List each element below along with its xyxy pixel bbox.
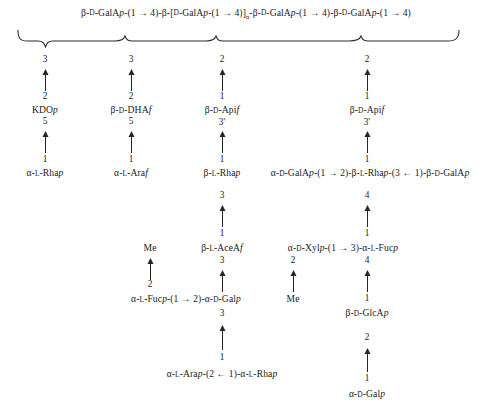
- bond-arrow-c2-b: [127, 131, 136, 153]
- residue-ara-rha-chain: α-L-Arap-(2 ← 1)-α-L-Rhap: [167, 369, 278, 379]
- bond-arrow-c4-d: [363, 270, 372, 292]
- bond-arrow-c3-a: [218, 69, 227, 91]
- residue-me-c4: Me: [287, 294, 300, 304]
- bond-arrow-c4-me: [289, 270, 298, 292]
- residue-b-d-dhaf: β-D-DHAf: [111, 105, 152, 115]
- c3-locant-1a: 1: [220, 92, 225, 101]
- residue-b-l-aceaf: β-L-AceAf: [201, 243, 243, 253]
- residue-b-d-glcap: β-D-GlcAp: [345, 308, 388, 318]
- residue-me-c3: Me: [144, 243, 157, 253]
- c2-locant-1: 1: [129, 155, 134, 164]
- c4-locant-1a: 1: [365, 92, 370, 101]
- c3-locant-1b: 1: [220, 155, 225, 164]
- bond-arrow-c3-c: [218, 205, 227, 227]
- c3-locant-3c: 3: [220, 309, 225, 318]
- bond-arrow-c3-d: [218, 270, 227, 292]
- bond-arrow-c4-b: [363, 131, 372, 153]
- residue-xyl-fuc-chain: α-D-Xylp-(1 → 3)-α-L-Fucp: [288, 243, 398, 253]
- c4-locant-1e: 1: [365, 374, 370, 383]
- bond-arrow-c4-e: [363, 348, 372, 372]
- bond-arrow-c2-a: [127, 69, 136, 91]
- c3-locant-3prime: 3': [219, 118, 226, 127]
- residue-b-d-apif-c4: β-D-Apif: [350, 105, 384, 115]
- c4-locant-1d: 1: [365, 294, 370, 303]
- bond-arrow-c1-a: [41, 69, 50, 91]
- c4-locant-4a: 4: [365, 191, 370, 200]
- c1-locant-1: 1: [43, 155, 48, 164]
- c1-locant-2: 2: [43, 92, 48, 101]
- residue-a-l-araf: α-L-Araf: [114, 168, 148, 178]
- bond-arrow-c1-b: [41, 131, 50, 153]
- c2-locant-5: 5: [129, 117, 134, 126]
- attachment-locant-4: 2: [365, 55, 370, 64]
- residue-kdop: KDOp: [32, 105, 58, 115]
- residue-b-d-apif-c3: β-D-Apif: [205, 105, 239, 115]
- bond-arrow-c3-me: [146, 258, 155, 280]
- residue-a-l-rhap: α-L-Rhap: [26, 168, 63, 178]
- c3-locant-3b: 3: [220, 256, 225, 265]
- bond-arrow-c4-c: [363, 205, 372, 227]
- residue-fuc-gal-chain: α-L-Fucp-(1 → 2)-α-D-Galp: [131, 294, 241, 304]
- c3-me-locant-2: 2: [148, 280, 153, 289]
- residue-galA-rha-galA-chain: α-D-GalAp-(1 → 2)-β-L-Rhap-(3 ← 1)-β-D-G…: [271, 168, 470, 178]
- bond-arrow-c3-e: [218, 325, 227, 350]
- c1-locant-5: 5: [43, 117, 48, 126]
- backbone-brace: [0, 0, 493, 48]
- c4-locant-1c: 1: [365, 229, 370, 238]
- attachment-locant-2: 3: [129, 55, 134, 64]
- attachment-locant-1: 3: [43, 55, 48, 64]
- bond-arrow-c4-a: [363, 69, 372, 91]
- c4-locant-1b: 1: [365, 155, 370, 164]
- c4-locant-4b: 4: [365, 256, 370, 265]
- residue-a-d-galp: α-D-Galp: [349, 389, 385, 399]
- c4-locant-2g: 2: [365, 333, 370, 342]
- c3-locant-3a: 3: [220, 191, 225, 200]
- bond-arrow-c3-b: [218, 131, 227, 153]
- c2-locant-2: 2: [129, 92, 134, 101]
- c3-locant-1d: 1: [220, 353, 225, 362]
- residue-b-l-rhap: β-L-Rhap: [204, 168, 241, 178]
- c4-locant-2x: 2: [291, 256, 296, 265]
- c3-locant-1c: 1: [220, 229, 225, 238]
- structure-figure: β-D-GalAp-(1 → 4)-β-[D-GalAp-(1 → 4)]n-β…: [0, 0, 493, 413]
- c4-locant-3prime: 3': [364, 118, 371, 127]
- attachment-locant-3: 2: [220, 55, 225, 64]
